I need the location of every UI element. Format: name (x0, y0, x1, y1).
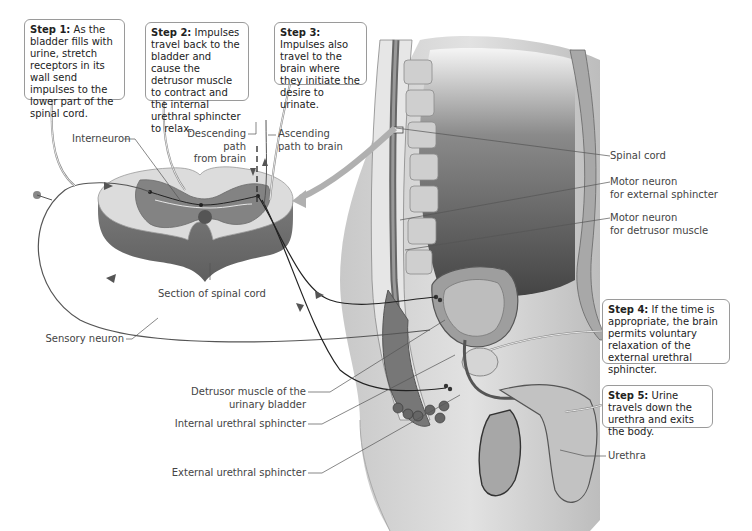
label-detrusor-muscle: Detrusor muscle of the urinary bladder (180, 386, 306, 411)
step-2-text: Impulses travel back to the bladder and … (151, 27, 241, 134)
label-ascending-path: Ascending path to brain (278, 128, 343, 153)
step-1-text: As the bladder fills with urine, stretch… (30, 24, 113, 119)
step-5-callout: Step 5: Urine travels down the urethra a… (602, 385, 713, 428)
label-external-urethral-sphincter: External urethral sphincter (160, 467, 306, 480)
step-2-callout: Step 2: Impulses travel back to the blad… (145, 22, 249, 101)
label-descending-path: Descending path from brain (170, 128, 246, 166)
label-urethra: Urethra (608, 450, 646, 463)
step-4-label: Step 4: (608, 304, 648, 315)
step-2-label: Step 2: (151, 27, 191, 38)
step-1-callout: Step 1: As the bladder fills with urine,… (24, 19, 125, 100)
step-3-label: Step 3: (280, 27, 320, 38)
step-4-callout: Step 4: If the time is appropriate, the … (602, 299, 730, 364)
label-internal-urethral-sphincter: Internal urethral sphincter (160, 418, 306, 431)
step-3-callout: Step 3: Impulses also travel to the brai… (274, 22, 367, 85)
step-5-label: Step 5: (608, 390, 648, 401)
spinal-cord-cross-section (98, 167, 293, 282)
label-spinal-cord: Spinal cord (610, 150, 666, 163)
label-interneuron: Interneuron (72, 133, 130, 146)
label-sensory-neuron: Sensory neuron (40, 333, 124, 346)
body-sagittal-section (340, 36, 608, 531)
label-motor-neuron-detrusor: Motor neuron for detrusor muscle (610, 212, 708, 237)
label-section-of-spinal-cord: Section of spinal cord (158, 288, 266, 301)
step-1-label: Step 1: (30, 24, 70, 35)
micturition-diagram: Step 1: As the bladder fills with urine,… (0, 0, 752, 531)
label-motor-neuron-external: Motor neuron for external sphincter (610, 176, 718, 201)
